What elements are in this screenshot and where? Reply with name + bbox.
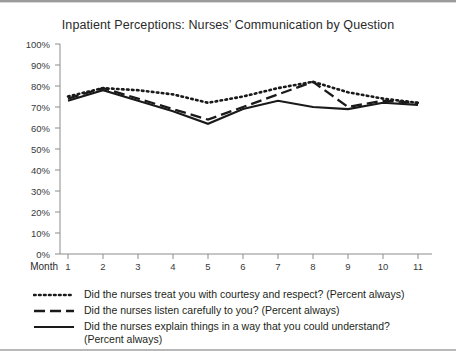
legend-item-label: Did the nurses treat you with courtesy a… xyxy=(84,288,404,301)
legend-item-label: Did the nurses listen carefully to you? … xyxy=(84,304,340,317)
legend-item: Did the nurses treat you with courtesy a… xyxy=(33,288,453,301)
x-axis-tick-label: 7 xyxy=(275,261,280,272)
y-axis-tick-label: 100% xyxy=(26,39,51,50)
legend-item: Did the nurses listen carefully to you? … xyxy=(33,304,453,317)
x-axis-tick-label: 10 xyxy=(378,261,389,272)
x-axis-tick-label: 8 xyxy=(310,261,315,272)
chart-legend: Did the nurses treat you with courtesy a… xyxy=(33,288,453,349)
y-axis-tick-label: 20% xyxy=(31,207,51,218)
y-axis: 100%90%80%70%60%50%40%30%20%10%0% xyxy=(26,39,60,260)
legend-item-label: Did the nurses explain things in a way t… xyxy=(84,320,390,346)
y-axis-tick-label: 40% xyxy=(31,165,51,176)
chart-page: Inpatient Perceptions: Nurses’ Communica… xyxy=(0,0,456,351)
legend-line-dotted-icon xyxy=(33,288,75,301)
x-axis-tick-label: 4 xyxy=(170,261,175,272)
y-axis-tick-label: 0% xyxy=(36,249,50,260)
y-axis-tick-label: 10% xyxy=(31,228,51,239)
legend-line-solid-icon xyxy=(33,320,75,333)
y-axis-tick-label: 60% xyxy=(31,123,51,134)
data-series-line xyxy=(68,82,418,120)
x-axis-tick-label: 6 xyxy=(240,261,245,272)
x-axis-tick-label: 5 xyxy=(205,261,210,272)
data-series-group xyxy=(68,82,418,124)
y-axis-tick-label: 90% xyxy=(31,60,51,71)
x-axis-tick-label: 3 xyxy=(135,261,140,272)
x-axis-tick-label: 9 xyxy=(345,261,350,272)
y-axis-tick-label: 80% xyxy=(31,81,51,92)
y-axis-tick-label: 30% xyxy=(31,186,51,197)
x-axis-name: Month xyxy=(30,261,58,272)
x-axis-tick-label: 2 xyxy=(100,261,105,272)
y-axis-tick-label: 50% xyxy=(31,144,51,155)
x-axis: Month1234567891011 xyxy=(30,254,432,272)
legend-item: Did the nurses explain things in a way t… xyxy=(33,320,453,346)
legend-line-dashed-icon xyxy=(33,304,75,317)
legend-item-label-line2: (Percent always) xyxy=(84,333,390,346)
x-axis-tick-label: 11 xyxy=(413,261,423,272)
y-axis-tick-label: 70% xyxy=(31,102,51,113)
chart-plot-area: 100%90%80%70%60%50%40%30%20%10%0% Month1… xyxy=(0,0,456,285)
x-axis-tick-label: 1 xyxy=(65,261,70,272)
